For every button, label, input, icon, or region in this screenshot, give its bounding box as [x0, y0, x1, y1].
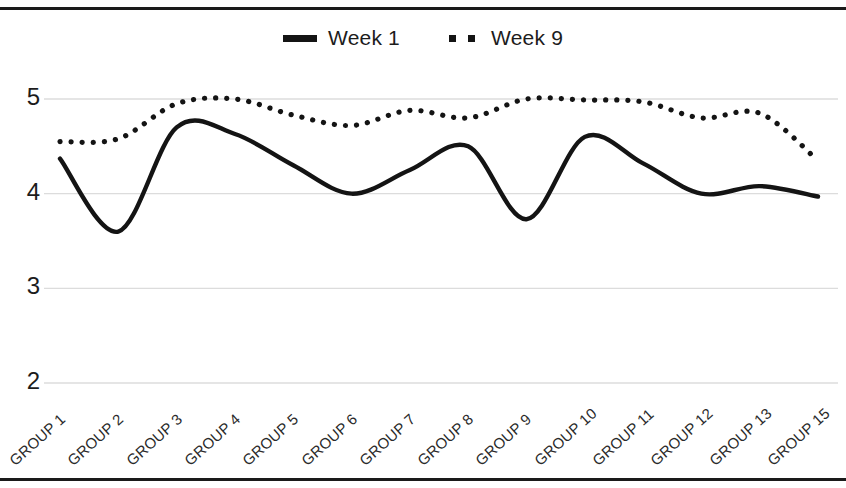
series-line-solid	[60, 120, 818, 231]
y-axis-tick-label: 5	[4, 83, 40, 111]
y-axis-tick-label: 4	[4, 178, 40, 206]
series-layer	[60, 98, 818, 232]
y-axis-tick-label: 2	[4, 367, 40, 395]
line-chart: Week 1 Week 9 5432 GROUP 1GROUP 2GROUP 3…	[0, 0, 846, 488]
y-axis-tick-label: 3	[4, 272, 40, 300]
gridlines	[44, 99, 838, 383]
plot-area	[0, 0, 846, 488]
